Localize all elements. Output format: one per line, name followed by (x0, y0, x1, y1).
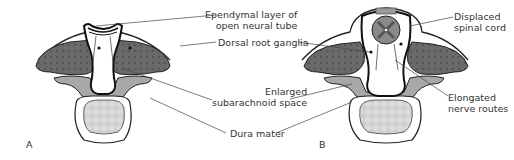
panel-label-b: B (319, 139, 326, 150)
label-dura-mater: Dura mater (230, 128, 285, 139)
label-elongated-nerve-routes: Elongated nerve routes (448, 92, 508, 114)
panel-label-a: A (26, 139, 33, 150)
label-dorsal-root-ganglia: Dorsal root ganglia (218, 37, 309, 48)
label-displaced-spinal-cord: Displaced spinal cord (454, 11, 506, 33)
label-enlarged-subarachnoid-space: Enlarged subarachnoid space (212, 86, 307, 108)
panel-a-figure (36, 24, 170, 143)
dorsal-root-ganglion-right (408, 42, 469, 75)
label-ependymal-layer: Ependymal layer of open neural tube (205, 9, 297, 31)
panel-b-figure (302, 8, 468, 143)
